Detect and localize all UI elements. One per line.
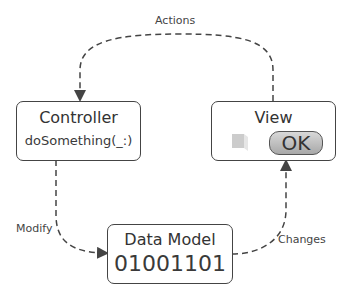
modify-label: Modify	[16, 222, 52, 235]
view-title: View	[212, 108, 335, 127]
controller-node: Controller doSomething(_:)	[16, 101, 141, 161]
model-title: Data Model	[108, 230, 232, 249]
data-model-node: Data Model 01001101	[107, 224, 233, 284]
controller-title: Controller	[17, 108, 140, 127]
cube-icon	[232, 134, 250, 152]
changes-label: Changes	[278, 233, 326, 246]
controller-method: doSomething(_:)	[17, 133, 140, 148]
actions-arrow	[80, 34, 273, 101]
view-node: View OK	[211, 101, 336, 161]
model-value: 01001101	[108, 251, 232, 276]
modify-arrow	[56, 160, 103, 253]
ok-button[interactable]: OK	[269, 131, 323, 155]
actions-label: Actions	[155, 14, 195, 27]
